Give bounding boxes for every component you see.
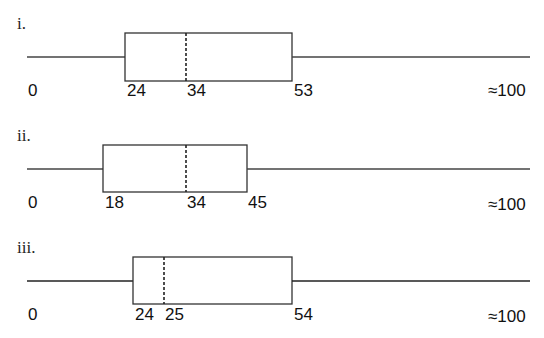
plot-label-ii: ii. [17, 126, 31, 146]
tick-label-q1: 24 [127, 81, 146, 101]
tick-label-q3: 53 [294, 81, 313, 101]
tick-label-q3: 45 [248, 193, 267, 213]
tick-label-min: 0 [28, 81, 37, 101]
tick-label-q1: 24 [135, 305, 154, 325]
plot-label-iii: iii. [17, 238, 35, 258]
tick-label-q1: 18 [105, 193, 124, 213]
tick-label-median: 34 [187, 81, 206, 101]
tick-label-median: 25 [165, 305, 184, 325]
tick-label-min: 0 [28, 305, 37, 325]
box [133, 257, 292, 304]
tick-label-min: 0 [28, 193, 37, 213]
box [103, 145, 247, 192]
box [125, 33, 292, 81]
tick-label-q3: 54 [294, 305, 313, 325]
tick-label-max: ≈100 [488, 195, 526, 215]
boxplot-iii [27, 257, 530, 304]
tick-label-median: 34 [187, 193, 206, 213]
boxplots-canvas [0, 0, 544, 338]
tick-label-max: ≈100 [488, 307, 526, 327]
boxplot-ii [27, 145, 530, 192]
boxplot-i [27, 33, 530, 81]
plot-label-i: i. [17, 14, 26, 34]
tick-label-max: ≈100 [488, 81, 526, 101]
